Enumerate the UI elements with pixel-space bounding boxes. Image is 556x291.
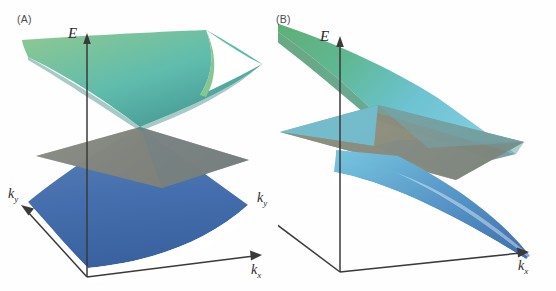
- panel-a: (A) E ky kx: [0, 0, 278, 291]
- kx-subscript: x: [524, 266, 528, 276]
- panel-b-ky-axis-label: ky: [257, 190, 267, 208]
- ky-subscript: y: [263, 198, 267, 208]
- panel-b-label: (B): [276, 13, 291, 25]
- ky-subscript: y: [14, 194, 18, 204]
- panel-a-graphic: [0, 0, 278, 291]
- panel-a-energy-axis-label: E: [68, 25, 77, 42]
- band-structure-figure: (A) E ky kx: [0, 0, 556, 291]
- panel-b-energy-axis-label: E: [320, 28, 329, 45]
- panel-a-kx-axis-label: kx: [251, 262, 261, 280]
- panel-b: (B) E ky kx: [278, 0, 556, 291]
- kx-subscript: x: [257, 270, 261, 280]
- panel-a-ky-axis-label: ky: [8, 186, 18, 204]
- panel-a-label: (A): [17, 13, 32, 25]
- panel-b-kx-axis-label: kx: [518, 258, 528, 276]
